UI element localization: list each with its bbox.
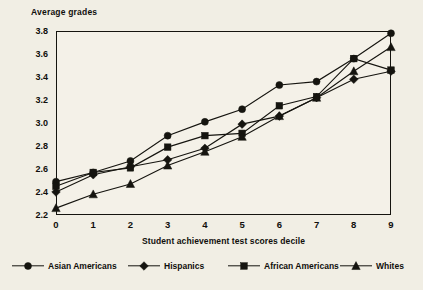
legend-item-hispanics[interactable]: Hispanics <box>128 260 204 272</box>
data-point <box>164 144 171 151</box>
data-point <box>276 102 283 109</box>
data-point <box>313 78 320 85</box>
data-point <box>350 67 358 75</box>
data-point <box>52 204 60 212</box>
x-tick-label: 0 <box>44 219 68 230</box>
data-point <box>387 43 395 51</box>
series-layer <box>56 31 391 215</box>
legend-item-whites[interactable]: Whites <box>340 260 404 272</box>
x-axis-title: Student achievement test scores decile <box>56 236 391 246</box>
legend-item-african-americans[interactable]: African Americans <box>228 260 339 272</box>
legend-marker-diamond-icon <box>128 260 160 272</box>
y-axis-title: Average grades <box>31 7 97 17</box>
data-point <box>276 82 283 89</box>
data-point <box>201 118 208 125</box>
data-point <box>239 106 246 113</box>
legend-marker-triangle-icon <box>340 260 372 272</box>
data-point <box>388 30 395 37</box>
legend-label: African Americans <box>264 261 339 271</box>
data-point <box>349 75 358 84</box>
data-point <box>388 67 395 74</box>
y-tick-label: 3.4 <box>20 72 48 82</box>
y-tick-label: 3.6 <box>20 49 48 59</box>
series-line <box>56 33 391 181</box>
x-tick-label: 5 <box>230 219 254 230</box>
y-tick-label: 2.4 <box>20 187 48 197</box>
data-point <box>127 165 134 172</box>
x-tick-label: 8 <box>342 219 366 230</box>
legend-label: Whites <box>376 261 404 271</box>
y-tick-label: 3.2 <box>20 95 48 105</box>
y-tick-label: 2.6 <box>20 164 48 174</box>
chart-legend: Asian AmericansHispanicsAfrican American… <box>0 258 423 280</box>
series-line <box>56 59 391 187</box>
legend-label: Hispanics <box>164 261 204 271</box>
legend-marker-circle-icon <box>12 260 44 272</box>
legend-item-asian-americans[interactable]: Asian Americans <box>12 260 117 272</box>
data-point <box>126 180 134 188</box>
legend-label: Asian Americans <box>48 261 117 271</box>
data-point <box>164 132 171 139</box>
x-tick-label: 6 <box>267 219 291 230</box>
x-tick-label: 7 <box>305 219 329 230</box>
data-point <box>350 55 357 62</box>
data-point <box>53 183 60 190</box>
data-point <box>90 169 97 176</box>
y-tick-label: 3.8 <box>20 26 48 36</box>
x-tick-label: 3 <box>156 219 180 230</box>
series-line <box>56 71 391 192</box>
data-point <box>238 120 247 129</box>
x-tick-label: 1 <box>81 219 105 230</box>
x-tick-label: 4 <box>193 219 217 230</box>
legend-marker-square-icon <box>228 260 260 272</box>
data-point <box>163 161 171 169</box>
y-tick-label: 2.8 <box>20 141 48 151</box>
data-point <box>202 132 209 139</box>
x-tick-label: 9 <box>379 219 403 230</box>
x-tick-label: 2 <box>118 219 142 230</box>
y-tick-label: 3.0 <box>20 118 48 128</box>
chart-container: Average grades 3.83.63.43.23.02.82.62.42… <box>0 0 423 290</box>
